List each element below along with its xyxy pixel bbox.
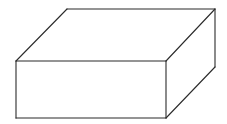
diagram-canvas	[0, 0, 227, 124]
rectangular-prism-diagram	[0, 0, 227, 124]
front-face	[16, 61, 166, 118]
